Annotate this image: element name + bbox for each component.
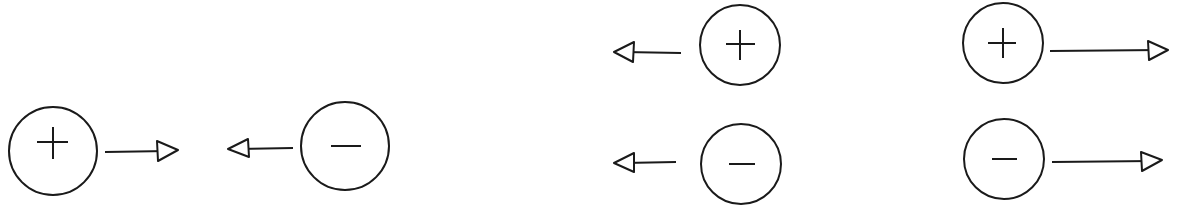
plus-sign-icon: [988, 28, 1016, 58]
positive-charge-left-group: [9, 107, 97, 195]
negative-charge-group: [701, 124, 781, 204]
right-arrow-icon: [105, 141, 178, 161]
right-arrow-icon: [1052, 152, 1162, 171]
plus-sign-icon: [37, 127, 68, 159]
charge-force-diagram: [0, 0, 1177, 222]
left-arrow-icon: [228, 139, 293, 157]
negative-charge-group: [964, 119, 1044, 199]
left-arrow-icon: [614, 42, 681, 62]
plus-sign-icon: [726, 30, 755, 60]
right-arrow-icon: [1050, 41, 1168, 60]
left-arrow-icon: [614, 153, 676, 172]
positive-charge-group: [963, 3, 1043, 83]
negative-charge-group: [301, 102, 389, 190]
positive-charge-group: [700, 5, 780, 85]
